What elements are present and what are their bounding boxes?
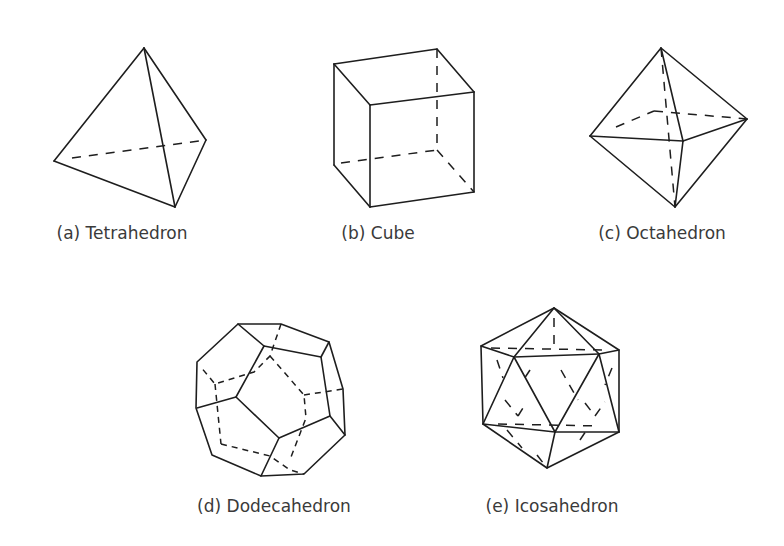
caption-octahedron: (c) Octahedron (598, 223, 726, 243)
platonic-solids-figure: (a) Tetrahedron (b) Cube (c) Octahedron … (0, 0, 784, 546)
icosahedron-icon (481, 308, 619, 468)
solids-drawing (0, 0, 784, 546)
caption-icosahedron: (e) Icosahedron (486, 496, 619, 516)
cube-icon (334, 49, 474, 207)
caption-cube: (b) Cube (341, 223, 414, 243)
dodecahedron-icon (196, 324, 345, 476)
caption-tetrahedron: (a) Tetrahedron (57, 223, 188, 243)
caption-dodecahedron: (d) Dodecahedron (197, 496, 351, 516)
tetrahedron-icon (54, 48, 206, 207)
octahedron-icon (590, 48, 747, 207)
